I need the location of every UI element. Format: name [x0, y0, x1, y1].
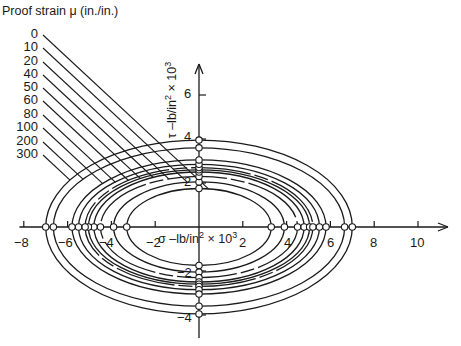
intercept-marker [110, 224, 116, 230]
intercept-marker [268, 224, 274, 230]
intercept-marker [75, 224, 81, 230]
intercept-marker [196, 291, 202, 297]
intercept-marker [323, 224, 329, 230]
x-tick-label: −4 [99, 236, 114, 249]
legend-label: 100 [2, 120, 38, 133]
intercept-marker [50, 224, 56, 230]
intercept-marker [196, 157, 202, 163]
chart-title: Proof strain μ (in./in.) [2, 4, 118, 18]
y-tick-label: −4 [177, 311, 192, 324]
x-tick-label: −6 [58, 236, 73, 249]
intercept-marker [196, 303, 202, 309]
intercept-marker [196, 137, 202, 143]
y-tick-label: 6 [184, 87, 191, 100]
leader-line-100 [43, 128, 103, 184]
leader-line-20 [43, 62, 169, 179]
intercept-marker [196, 185, 202, 191]
leader-line-300 [43, 155, 70, 180]
intercept-marker [349, 224, 355, 230]
intercept-marker [316, 224, 322, 230]
x-tick-label: 8 [370, 236, 377, 249]
intercept-marker [43, 224, 49, 230]
y-tick-label: 4 [184, 130, 191, 143]
x-tick-label: 10 [410, 236, 424, 249]
legend-label: 10 [2, 40, 38, 53]
intercept-marker [281, 224, 287, 230]
intercept-marker [196, 311, 202, 317]
intercept-marker [124, 224, 130, 230]
x-tick-label: 4 [284, 236, 291, 249]
x-tick-label: −8 [14, 236, 29, 249]
leader-line-40 [43, 75, 154, 178]
ellipse-chart [0, 0, 461, 346]
intercept-marker [196, 145, 202, 151]
intercept-marker [196, 262, 202, 268]
intercept-marker [294, 224, 300, 230]
intercept-marker [82, 224, 88, 230]
x-tick-label: 2 [239, 236, 246, 249]
x-axis-title: σ –lb/in2 × 103 [158, 232, 237, 246]
legend-label: 60 [2, 93, 38, 106]
intercept-marker [97, 224, 103, 230]
x-tick-label: 6 [327, 236, 334, 249]
intercept-marker [341, 224, 347, 230]
intercept-marker [310, 224, 316, 230]
y-axis-title: τ –lb/in2 × 103 [165, 54, 179, 146]
y-tick-label: 2 [184, 175, 191, 188]
legend-label: 300 [2, 147, 38, 160]
y-tick-label: −2 [177, 266, 192, 279]
intercept-marker [69, 224, 75, 230]
